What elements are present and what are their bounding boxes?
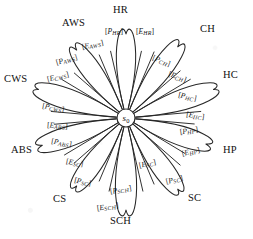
spoke-cs-0 <box>99 126 122 181</box>
spoke-sc-1 <box>130 126 155 184</box>
hub-node: s0 <box>117 109 135 127</box>
spoke-aws-0 <box>74 73 119 112</box>
petal-loop-aws[interactable] <box>69 43 122 112</box>
diagram-canvas: s0 HRCHHCHPSCSCHCSABSCWSAWS [PHR][EHR][P… <box>0 0 253 239</box>
petal-name-sch: SCH <box>110 216 131 227</box>
spoke-hr-1 <box>128 51 141 109</box>
label-e-hr: [EHR] <box>136 28 154 37</box>
spoke-sc-0 <box>133 124 181 165</box>
petal-name-abs: ABS <box>11 145 32 156</box>
petal-name-cs: CS <box>53 194 66 205</box>
spoke-hr-0 <box>111 51 124 109</box>
spoke-cs-1 <box>74 124 119 163</box>
petal-name-sc: SC <box>188 193 201 204</box>
spoke-sch-1 <box>109 127 124 192</box>
petal-name-hp: HP <box>223 145 237 156</box>
label-e-abs: [EABS] <box>47 121 68 131</box>
petal-graph-svg: s0 <box>0 0 253 239</box>
petal-loop-hr[interactable] <box>116 29 135 108</box>
petal-name-aws: AWS <box>62 18 85 29</box>
petal-name-hc: HC <box>223 70 238 81</box>
petal-name-hr: HR <box>113 5 128 16</box>
label-p-hr: [PHR] <box>105 28 123 37</box>
petal-name-cws: CWS <box>4 74 27 85</box>
petal-loop-sch[interactable] <box>115 128 136 216</box>
petal-name-ch: CH <box>200 24 215 35</box>
